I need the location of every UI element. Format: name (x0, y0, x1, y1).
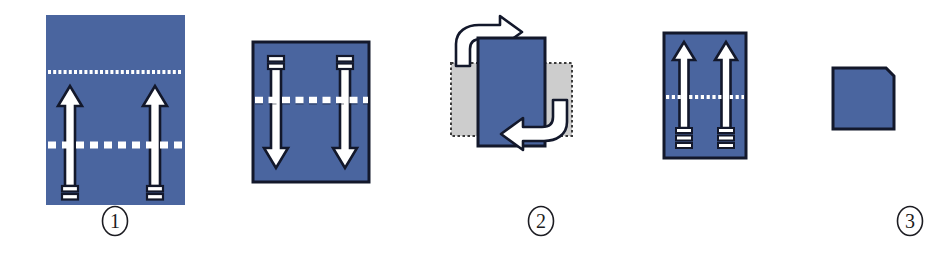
paper-sheet (833, 68, 894, 129)
step-one-number: 1 (110, 210, 120, 232)
step-five: 5 (810, 0, 941, 259)
step-two: 2 (230, 0, 410, 259)
step-five-figure (810, 0, 941, 259)
step-four-figure (630, 0, 800, 259)
step-one-label: 1 (95, 205, 135, 237)
step-three: 3 (410, 0, 610, 259)
step-three-figure (410, 0, 610, 259)
origami-instruction-diagram: 1 (0, 0, 941, 259)
step-four: 4 (630, 0, 800, 259)
step-two-figure (230, 0, 410, 259)
left-ghost-flap (451, 63, 479, 136)
step-one: 1 (0, 0, 260, 259)
